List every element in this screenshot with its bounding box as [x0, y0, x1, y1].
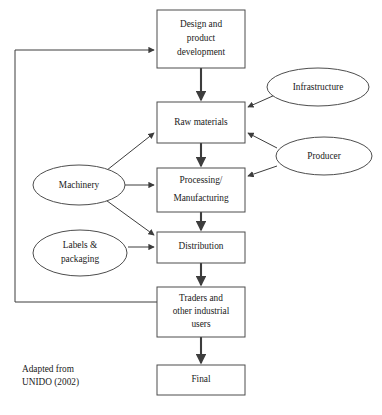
- node-machinery: Machinery: [33, 165, 125, 205]
- node-design-and-product-development: Design and product development: [157, 10, 245, 68]
- flowchart-diagram: Design and product development Raw mater…: [0, 0, 382, 415]
- design-label-line-2: product: [187, 33, 216, 43]
- raw-materials-label: Raw materials: [174, 117, 228, 127]
- node-final: Final: [157, 365, 245, 395]
- edge-machinery-to-distribution: [103, 198, 154, 235]
- traders-label-line-2: other industrial: [173, 306, 230, 316]
- source-note-line-2: UNIDO (2002): [22, 377, 79, 388]
- edge-producer-to-raw-materials: [248, 133, 277, 148]
- final-label: Final: [191, 374, 211, 384]
- node-traders-and-other-industrial-users: Traders and other industrial users: [157, 287, 245, 337]
- infrastructure-label: Infrastructure: [293, 82, 344, 92]
- labels-packaging-label-line-2: packaging: [61, 254, 100, 264]
- edge-producer-to-processing: [248, 166, 277, 176]
- processing-label-line-1: Processing/: [180, 175, 223, 185]
- labels-packaging-ellipse: [33, 230, 127, 276]
- machinery-label: Machinery: [59, 180, 100, 190]
- source-note: Adapted from UNIDO (2002): [22, 364, 79, 388]
- labels-packaging-label-line-1: Labels &: [63, 240, 98, 250]
- node-raw-materials: Raw materials: [157, 102, 245, 143]
- processing-label-line-2: Manufacturing: [173, 193, 229, 203]
- edge-machinery-to-raw-materials: [102, 133, 154, 174]
- design-label-line-1: Design and: [180, 19, 222, 29]
- distribution-label: Distribution: [179, 241, 224, 251]
- edge-infrastructure-to-raw-materials: [248, 95, 275, 107]
- producer-label: Producer: [307, 151, 341, 161]
- flowchart-canvas: Design and product development Raw mater…: [0, 0, 382, 415]
- design-label-line-3: development: [177, 47, 225, 57]
- source-note-line-1: Adapted from: [22, 364, 75, 374]
- node-producer: Producer: [276, 137, 372, 175]
- traders-label-line-1: Traders and: [179, 293, 223, 303]
- node-labels-and-packaging: Labels & packaging: [33, 230, 127, 276]
- traders-label-line-3: users: [191, 319, 210, 329]
- node-infrastructure: Infrastructure: [267, 68, 369, 106]
- node-processing-manufacturing: Processing/ Manufacturing: [157, 168, 245, 212]
- node-distribution: Distribution: [157, 232, 245, 263]
